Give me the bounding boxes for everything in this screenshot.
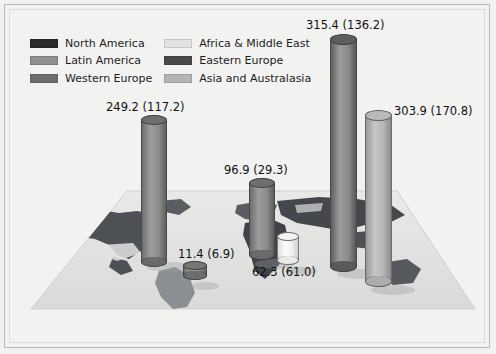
legend-label-western-europe: Western Europe xyxy=(65,73,152,84)
bar-value-eastern-europe: 315.4 (136.2) xyxy=(306,19,384,31)
bar-top-africa-middle-east xyxy=(277,232,299,241)
bar-body-north-america xyxy=(141,120,167,262)
legend-swatch-latin-america xyxy=(30,56,58,65)
legend-item-asia-australasia[interactable]: Asia and Australasia xyxy=(164,71,311,85)
legend-swatch-western-europe xyxy=(30,74,58,83)
bar-top-eastern-europe xyxy=(330,34,357,45)
legend-label-africa-middle-east: Africa & Middle East xyxy=(199,38,310,49)
bar-bottom-africa-middle-east xyxy=(277,256,299,265)
bar-eastern-europe[interactable] xyxy=(330,39,357,267)
legend-swatch-eastern-europe xyxy=(164,56,192,65)
legend-label-eastern-europe: Eastern Europe xyxy=(199,55,283,66)
bar-value-latin-america: 11.4 (6.9) xyxy=(178,248,235,260)
bar-body-western-europe xyxy=(249,183,275,255)
legend-swatch-north-america xyxy=(30,39,58,48)
legend-swatch-asia-australasia xyxy=(164,74,192,83)
bar-bottom-latin-america xyxy=(183,271,207,280)
legend-item-north-america[interactable]: North America xyxy=(30,36,152,50)
legend-item-eastern-europe[interactable]: Eastern Europe xyxy=(164,54,311,68)
bar-north-america[interactable] xyxy=(141,120,167,262)
bar-value-africa-middle-east: 62.3 (61.0) xyxy=(252,266,316,278)
bar-western-europe[interactable] xyxy=(249,183,275,255)
legend-label-north-america: North America xyxy=(65,38,145,49)
bar-bottom-asia-australasia xyxy=(365,276,392,287)
legend-swatch-africa-middle-east xyxy=(164,39,192,48)
legend-item-latin-america[interactable]: Latin America xyxy=(30,54,152,68)
bar-top-asia-australasia xyxy=(365,110,392,121)
legend: North America Africa & Middle East Latin… xyxy=(30,36,302,86)
bar-top-western-europe xyxy=(249,178,275,188)
legend-item-western-europe[interactable]: Western Europe xyxy=(30,71,152,85)
legend-label-asia-australasia: Asia and Australasia xyxy=(199,73,311,84)
bar-africa-middle-east[interactable] xyxy=(277,236,299,261)
bar-top-latin-america xyxy=(183,261,207,270)
bar-value-north-america: 249.2 (117.2) xyxy=(106,101,184,113)
legend-item-africa-middle-east[interactable]: Africa & Middle East xyxy=(164,36,311,50)
bar-top-north-america xyxy=(141,115,167,125)
bar-bottom-western-europe xyxy=(249,250,275,260)
bar-bottom-eastern-europe xyxy=(330,261,357,272)
bar-latin-america[interactable] xyxy=(183,265,207,276)
legend-label-latin-america: Latin America xyxy=(65,55,141,66)
bar-asia-australasia[interactable] xyxy=(365,115,392,282)
bar-body-eastern-europe xyxy=(330,39,357,267)
bar-body-asia-australasia xyxy=(365,115,392,282)
chart-screenshot: North America Africa & Middle East Latin… xyxy=(0,0,496,354)
bar-value-asia-australasia: 303.9 (170.8) xyxy=(394,105,472,117)
bar-value-western-europe: 96.9 (29.3) xyxy=(224,164,288,176)
bar-bottom-north-america xyxy=(141,257,167,267)
